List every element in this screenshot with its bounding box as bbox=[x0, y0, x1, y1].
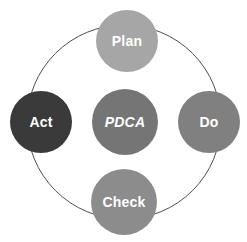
node-check[interactable]: Check bbox=[91, 169, 157, 235]
node-act[interactable]: Act bbox=[10, 91, 72, 153]
node-do[interactable]: Do bbox=[178, 91, 240, 153]
node-check-label: Check bbox=[102, 195, 145, 209]
node-pdca-center[interactable]: PDCA bbox=[92, 89, 158, 155]
node-pdca-center-label: PDCA bbox=[105, 115, 145, 129]
pdca-cycle-diagram: Plan Do Check Act PDCA bbox=[0, 0, 247, 242]
node-do-label: Do bbox=[199, 115, 218, 129]
node-plan-label: Plan bbox=[112, 34, 142, 48]
node-plan[interactable]: Plan bbox=[96, 10, 158, 72]
node-act-label: Act bbox=[29, 115, 52, 129]
